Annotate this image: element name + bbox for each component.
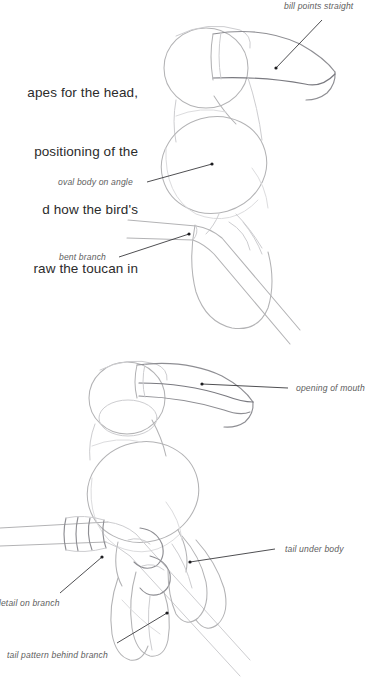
label-tail-pattern-behind-branch: tail pattern behind branch <box>7 650 108 661</box>
label-bent-branch: bent branch <box>59 252 106 263</box>
label-opening-of-mouth: opening of mouth <box>296 383 365 394</box>
label-tail-under-body: tail under body <box>285 544 344 555</box>
tutorial-page: apes for the head, positioning of the d … <box>0 0 373 687</box>
label-detail-on-branch: detail on branch <box>0 598 60 609</box>
body-copy-line-1: apes for the head, <box>0 83 138 103</box>
body-copy-line-3: d how the bird's <box>0 200 138 220</box>
body-copy-line-2: positioning of the <box>0 142 138 162</box>
label-bill-points-straight: bill points straight <box>284 1 353 12</box>
label-oval-body-on-angle: oval body on angle <box>58 177 133 188</box>
